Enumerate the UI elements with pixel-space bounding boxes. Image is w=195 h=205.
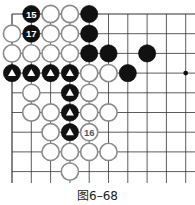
- white-stone: [42, 143, 59, 160]
- white-stone-body: [100, 143, 117, 160]
- black-stone-body: [81, 25, 98, 42]
- white-stone-body: [61, 143, 78, 160]
- white-stone: [100, 143, 117, 160]
- white-stone: [42, 104, 59, 121]
- white-stone-body: [81, 143, 98, 160]
- white-stone-body: [23, 104, 40, 121]
- white-stone-body: [42, 45, 59, 62]
- white-stone: [81, 143, 98, 160]
- white-stone: [100, 104, 117, 121]
- white-stone: [61, 45, 78, 62]
- move-number: 17: [26, 28, 37, 39]
- move-number: 16: [84, 127, 95, 138]
- black-stone-body: [81, 45, 98, 62]
- black-stone: [61, 104, 78, 121]
- white-stone-body: [81, 65, 98, 82]
- black-stone: [61, 124, 78, 141]
- star-point: [183, 71, 188, 76]
- white-stone-body: [42, 104, 59, 121]
- white-stone-body: [61, 25, 78, 42]
- black-stone: 15: [23, 5, 40, 22]
- white-stone: [81, 65, 98, 82]
- move-number: 15: [26, 9, 37, 20]
- white-stone: [23, 84, 40, 101]
- white-stone: [42, 45, 59, 62]
- black-stone: [42, 65, 59, 82]
- white-stone: [42, 5, 59, 22]
- white-stone-body: [61, 5, 78, 22]
- white-stone-body: [23, 84, 40, 101]
- black-stone-body: [139, 45, 156, 62]
- white-stone: [61, 143, 78, 160]
- black-stone: [81, 5, 98, 22]
- white-stone-body: [81, 104, 98, 121]
- white-stone: [23, 45, 40, 62]
- white-stone: [61, 163, 78, 180]
- black-stone-body: [100, 45, 117, 62]
- figure-caption: 图6–68: [0, 186, 195, 203]
- white-stone: [42, 25, 59, 42]
- white-stone: [23, 104, 40, 121]
- go-board-diagram: 151716: [0, 0, 195, 185]
- white-stone-body: [61, 163, 78, 180]
- white-stone-body: [81, 84, 98, 101]
- black-stone: [100, 45, 117, 62]
- black-stone: 17: [23, 25, 40, 42]
- white-stone: [100, 65, 117, 82]
- white-stone: [3, 25, 20, 42]
- white-stone: [81, 84, 98, 101]
- black-stone-body: [119, 65, 136, 82]
- black-stone: [61, 84, 78, 101]
- white-stone: [81, 104, 98, 121]
- star-points: [183, 71, 188, 76]
- black-stone: [119, 65, 136, 82]
- white-stone-body: [42, 5, 59, 22]
- white-stone: [61, 5, 78, 22]
- white-stone-body: [42, 25, 59, 42]
- white-stone-body: [100, 65, 117, 82]
- white-stone-body: [100, 104, 117, 121]
- black-stone: [61, 65, 78, 82]
- white-stone-body: [42, 124, 59, 141]
- black-stone: [81, 45, 98, 62]
- white-stone-body: [23, 45, 40, 62]
- black-stone: [23, 65, 40, 82]
- white-stone-body: [3, 25, 20, 42]
- black-stone: [139, 45, 156, 62]
- black-stone-body: [81, 5, 98, 22]
- black-stone: [3, 65, 20, 82]
- black-stone: [81, 25, 98, 42]
- white-stone: 16: [81, 124, 98, 141]
- white-stone: [3, 45, 20, 62]
- white-stone-body: [61, 45, 78, 62]
- white-stone: [42, 124, 59, 141]
- white-stone: [61, 25, 78, 42]
- white-stone-body: [42, 143, 59, 160]
- white-stone-body: [3, 45, 20, 62]
